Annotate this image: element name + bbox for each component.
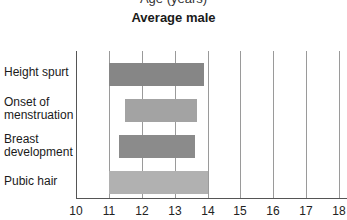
bar-breast-development xyxy=(119,135,195,158)
x-axis-line xyxy=(76,198,347,199)
label-line: menstruation xyxy=(4,109,73,122)
label-line: Height spurt xyxy=(4,65,69,79)
bar-pubic-hair xyxy=(109,171,208,194)
x-tick-label: 11 xyxy=(97,204,121,218)
x-tick-label: 15 xyxy=(228,204,252,218)
x-tick-label: 16 xyxy=(261,204,285,218)
gridline-15 xyxy=(240,51,241,198)
gridline-16 xyxy=(273,51,274,198)
category-label-height-spurt: Height spurt xyxy=(4,66,69,79)
x-tick-label: 14 xyxy=(196,204,220,218)
x-tick-label: 18 xyxy=(327,204,347,218)
x-tick-label: 17 xyxy=(294,204,318,218)
bar-onset-of-menstruation xyxy=(125,99,197,122)
category-label-pubic-hair: Pubic hair xyxy=(4,175,57,188)
gridline-17 xyxy=(306,51,307,198)
category-label-breast-development: Breast development xyxy=(4,133,73,159)
bar-height-spurt xyxy=(109,63,204,86)
x-tick-label: 12 xyxy=(130,204,154,218)
category-label-onset-of-menstruation: Onset of menstruation xyxy=(4,96,73,122)
gridline-18 xyxy=(339,51,340,198)
label-line: Pubic hair xyxy=(4,174,57,188)
label-line: development xyxy=(4,146,73,159)
y-axis-line xyxy=(76,51,77,199)
gridline-14 xyxy=(208,51,209,198)
x-tick-label: 13 xyxy=(163,204,187,218)
x-tick-label: 10 xyxy=(64,204,88,218)
chart-plot-area: Height spurt Onset of menstruation Breas… xyxy=(0,0,347,220)
